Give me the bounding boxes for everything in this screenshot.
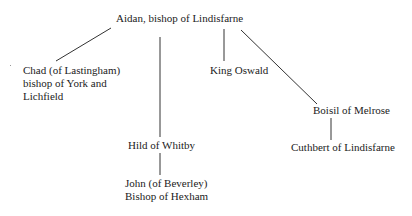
node-boisil: Boisil of Melrose [313,104,390,117]
node-oswald: King Oswald [210,64,268,77]
node-chad: Chad (of Lastingham) bishop of York and … [23,64,120,103]
edge-aidan-chad [56,28,111,61]
speck [10,65,11,66]
node-hild: Hild of Whitby [128,139,195,152]
node-cuthbert: Cuthbert of Lindisfarne [291,141,395,154]
node-john: John (of Beverley) Bishop of Hexham [125,177,208,203]
lineage-diagram: Aidan, bishop of Lindisfarne Chad (of La… [0,0,412,216]
node-aidan: Aidan, bishop of Lindisfarne [116,12,243,25]
